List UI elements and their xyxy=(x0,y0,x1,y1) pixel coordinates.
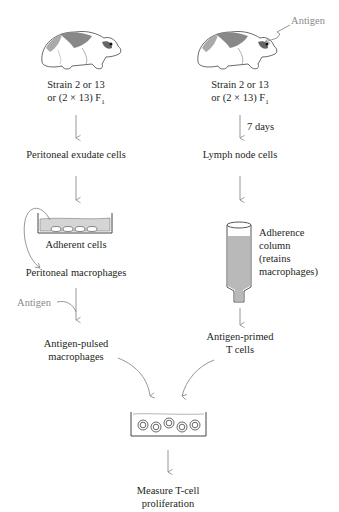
left-strain-line2-text: or (2 × 13) F xyxy=(47,92,101,103)
antigen-primed-t-cells-label: Antigen-primed T cells xyxy=(190,330,290,356)
left-strain-label: Strain 2 or 13 or (2 × 13) F1 xyxy=(38,78,114,109)
antigen-primed-line1: Antigen-primed xyxy=(190,330,290,343)
antigen-primed-line2: T cells xyxy=(190,343,290,356)
antigen-pulsed-macrophages-label: Antigen-pulsed macrophages xyxy=(26,337,126,363)
adherent-cells-dish-icon xyxy=(38,213,112,233)
guinea-pig-icon-right xyxy=(198,31,277,69)
peritoneal-exudate-cells-label: Peritoneal exudate cells xyxy=(16,148,136,161)
right-strain-line2-text: or (2 × 13) F xyxy=(211,92,265,103)
left-strain-line1: Strain 2 or 13 xyxy=(38,78,114,91)
lymph-node-cells-label: Lymph node cells xyxy=(190,148,290,161)
adherent-cells-label: Adherent cells xyxy=(38,238,114,251)
adherence-column-icon xyxy=(227,222,251,302)
right-strain-line2: or (2 × 13) F1 xyxy=(202,91,278,109)
antigen-pulsed-line2: macrophages xyxy=(26,350,126,363)
left-strain-subscript: 1 xyxy=(101,98,105,106)
column-label-line2: column xyxy=(259,239,339,252)
coculture-dish-icon xyxy=(131,412,206,436)
measure-line2: proliferation xyxy=(118,497,218,510)
antigen-pulsed-line1: Antigen-pulsed xyxy=(26,337,126,350)
antigen-label-left: Antigen xyxy=(14,296,54,309)
guinea-pig-icon-left xyxy=(42,31,121,69)
right-strain-line1: Strain 2 or 13 xyxy=(202,78,278,91)
column-label-line1: Adherence xyxy=(259,226,339,239)
peritoneal-macrophages-label: Peritoneal macrophages xyxy=(16,266,136,279)
arrow-tcells-to-coculture xyxy=(182,360,214,396)
left-strain-line2: or (2 × 13) F1 xyxy=(38,91,114,109)
arrow-macrophages-to-coculture xyxy=(118,358,150,396)
right-strain-label: Strain 2 or 13 or (2 × 13) F1 xyxy=(202,78,278,109)
right-strain-subscript: 1 xyxy=(265,98,269,106)
seven-days-label: 7 days xyxy=(247,120,287,133)
column-label-line3: (retains xyxy=(259,252,339,265)
antigen-pulse-arrow xyxy=(57,301,76,312)
measure-proliferation-label: Measure T-cell proliferation xyxy=(118,484,218,510)
antigen-label-right: Antigen xyxy=(284,14,332,27)
adherence-column-label: Adherence column (retains macrophages) xyxy=(259,226,339,278)
column-label-line4: macrophages) xyxy=(259,265,339,278)
measure-line1: Measure T-cell xyxy=(118,484,218,497)
